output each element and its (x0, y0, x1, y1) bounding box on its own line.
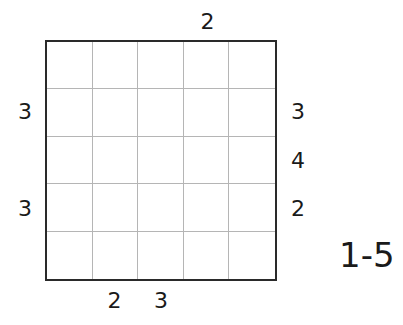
clue-right-4: 2 (283, 198, 313, 220)
grid-cell-r1-c4[interactable] (184, 42, 230, 89)
grid-cell-r4-c2[interactable] (93, 184, 139, 231)
grid-cell-r1-c5[interactable] (229, 42, 275, 89)
puzzle-grid (45, 40, 277, 281)
grid-cell-r5-c4[interactable] (184, 232, 230, 279)
clue-top-4: 2 (192, 11, 222, 33)
grid-cell-r3-c4[interactable] (184, 137, 230, 184)
grid-cell-r4-c4[interactable] (184, 184, 230, 231)
clue-left-2: 3 (10, 101, 40, 123)
grid-cell-r5-c1[interactable] (47, 232, 93, 279)
range-label: 1-5 (339, 238, 395, 272)
grid-cell-r4-c1[interactable] (47, 184, 93, 231)
clue-bottom-2: 2 (100, 290, 130, 312)
grid-cell-r1-c2[interactable] (93, 42, 139, 89)
grid-cell-r2-c5[interactable] (229, 89, 275, 136)
grid-cell-r1-c3[interactable] (138, 42, 184, 89)
clue-right-2: 3 (283, 101, 313, 123)
grid-cell-r4-c5[interactable] (229, 184, 275, 231)
clue-left-4: 3 (10, 198, 40, 220)
grid-cell-r5-c3[interactable] (138, 232, 184, 279)
grid-cell-r1-c1[interactable] (47, 42, 93, 89)
clue-bottom-3: 3 (146, 290, 176, 312)
grid-cell-r5-c2[interactable] (93, 232, 139, 279)
grid-cell-r5-c5[interactable] (229, 232, 275, 279)
grid-cell-r2-c3[interactable] (138, 89, 184, 136)
clue-right-3: 4 (283, 150, 313, 172)
grid-cell-r2-c2[interactable] (93, 89, 139, 136)
grid-cell-r3-c1[interactable] (47, 137, 93, 184)
grid-cell-r3-c3[interactable] (138, 137, 184, 184)
grid-cell-r3-c5[interactable] (229, 137, 275, 184)
grid-cell-r2-c4[interactable] (184, 89, 230, 136)
grid-cell-r2-c1[interactable] (47, 89, 93, 136)
grid-cell-r4-c3[interactable] (138, 184, 184, 231)
grid-cell-r3-c2[interactable] (93, 137, 139, 184)
